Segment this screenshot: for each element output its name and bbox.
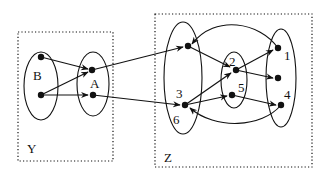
node-z1 <box>275 45 281 51</box>
mapping-arrows <box>41 25 281 124</box>
node-z_mid <box>275 75 281 81</box>
node-label-6: 6 <box>173 112 180 127</box>
node-b1 <box>38 54 44 60</box>
arrow-z_top-to-z2 <box>188 46 230 67</box>
node-z_top <box>185 43 191 49</box>
node-a2 <box>90 92 96 98</box>
arrow-a1-to-z_top <box>92 47 183 70</box>
node-label-3: 3 <box>176 86 183 101</box>
set-mapping-diagram: YZBA362514 <box>0 0 331 180</box>
box-label-z: Z <box>164 150 172 165</box>
diagram-labels: YZBA362514 <box>27 48 291 165</box>
node-a1 <box>89 67 95 73</box>
node-label-2: 2 <box>229 54 236 69</box>
box-label-y: Y <box>27 141 37 156</box>
node-z36 <box>182 102 188 108</box>
node-b2 <box>38 92 44 98</box>
arrow-z2-to-z_mid <box>236 70 273 78</box>
ellipse-label-a: A <box>90 76 100 91</box>
node-label-1: 1 <box>284 48 291 63</box>
node-label-5: 5 <box>238 80 245 95</box>
ellipse-b <box>24 52 58 120</box>
node-z5 <box>229 92 235 98</box>
node-z4 <box>278 102 284 108</box>
ellipse-label-b: B <box>33 68 42 83</box>
node-label-4: 4 <box>284 87 291 102</box>
set-ellipses <box>24 22 296 134</box>
arrow-z1-to-z_top <box>192 25 278 48</box>
arrow-b2-to-a1 <box>41 72 88 95</box>
arrow-z5-to-z4 <box>232 95 276 105</box>
